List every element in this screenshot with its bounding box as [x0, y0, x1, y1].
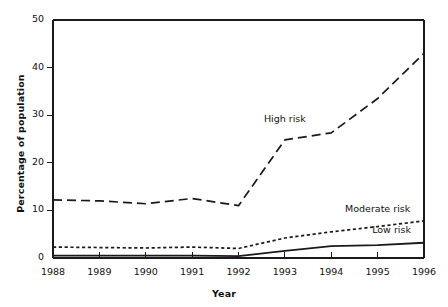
y-axis-ticks	[47, 68, 53, 211]
x-axis-tick-label: 1989	[76, 266, 122, 277]
x-axis-title: Year	[0, 288, 448, 299]
x-axis-tick-label: 1996	[401, 266, 447, 277]
x-axis-tick-label: 1991	[169, 266, 215, 277]
series-label-moderate-risk: Moderate risk	[345, 203, 410, 214]
chart-axes	[53, 20, 424, 258]
x-axis-tick-label: 1995	[355, 266, 401, 277]
series-label-low-risk: Low risk	[372, 224, 411, 235]
x-axis-tick-label: 1994	[308, 266, 354, 277]
chart-figure: 01020304050 1988198919901991199219931994…	[0, 0, 448, 307]
series-line-high-risk	[53, 53, 424, 205]
y-axis-title: Percentage of population	[15, 64, 26, 224]
y-axis-tick-label: 50	[18, 13, 44, 24]
x-axis-tick-label: 1990	[123, 266, 169, 277]
x-axis-tick-label: 1993	[262, 266, 308, 277]
chart-series-lines	[53, 53, 424, 256]
series-line-moderate-risk	[53, 221, 424, 249]
series-label-high-risk: High risk	[264, 113, 306, 124]
line-chart-plot	[0, 0, 448, 307]
y-axis-tick-label: 0	[18, 251, 44, 262]
x-axis-tick-label: 1988	[30, 266, 76, 277]
x-axis-tick-label: 1992	[216, 266, 262, 277]
